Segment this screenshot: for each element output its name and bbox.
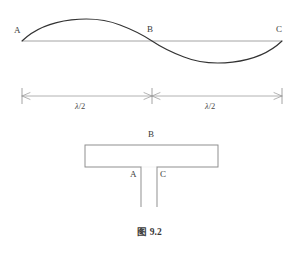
wave-label-a: A bbox=[14, 26, 21, 35]
figure-container: A B C λ/2 λ/2 B A C 图 9.2 bbox=[0, 0, 299, 256]
tube-label-a: A bbox=[130, 170, 137, 179]
dimension-label-left-half-wavelength: λ/2 bbox=[75, 102, 85, 111]
figure-graphics bbox=[0, 0, 299, 256]
tube-label-c: C bbox=[160, 170, 166, 179]
dimension-line-group bbox=[22, 88, 282, 104]
tube-diagram-group bbox=[85, 145, 218, 207]
wave-label-b: B bbox=[147, 25, 153, 34]
dimension-label-right-half-wavelength: λ/2 bbox=[205, 102, 215, 111]
tube-label-b: B bbox=[148, 130, 154, 139]
figure-caption: 图 9.2 bbox=[0, 228, 299, 238]
lambda-divisor-right: /2 bbox=[209, 101, 216, 111]
lambda-divisor-left: /2 bbox=[79, 101, 86, 111]
wave-label-c: C bbox=[276, 25, 282, 34]
tube-body-rect bbox=[85, 145, 218, 167]
